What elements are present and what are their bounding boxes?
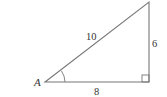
opposite-label: 6 [152,38,157,49]
triangle [45,2,149,82]
angle-arc [62,71,66,82]
right-angle-marker [142,75,149,82]
adjacent-label: 8 [94,86,99,97]
vertex-label-a: A [33,76,41,88]
triangle-diagram: A 10 6 8 [0,0,167,97]
hypotenuse-label: 10 [86,31,97,42]
